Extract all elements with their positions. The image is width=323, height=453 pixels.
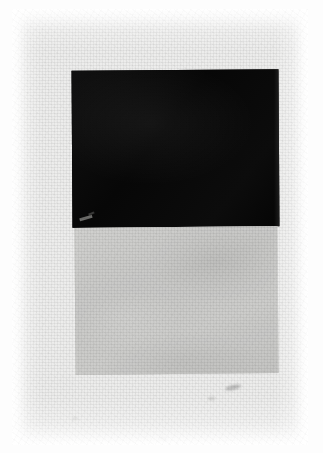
black-quadrilateral xyxy=(72,69,280,227)
grey-surface-mottling xyxy=(74,226,278,375)
artwork-plate: A monochrome photograph of a suprematist… xyxy=(0,0,323,453)
black-surface-sheen xyxy=(72,69,280,227)
canvas-speck-lower xyxy=(159,435,169,442)
canvas-smudge xyxy=(225,383,242,391)
canvas-speck-upper xyxy=(208,397,215,400)
grey-quadrilateral xyxy=(74,226,278,375)
canvas-speck-left xyxy=(72,417,78,420)
canvas-ground xyxy=(12,9,308,445)
